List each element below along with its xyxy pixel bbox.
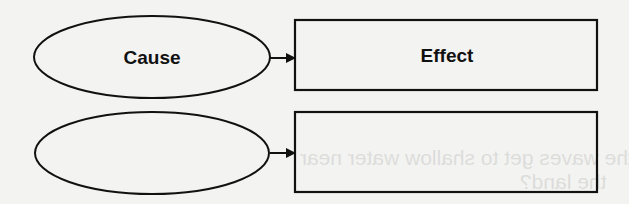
cause-ellipse-2 bbox=[35, 112, 269, 194]
row-1: Cause Effect bbox=[34, 16, 597, 98]
effect-label-1: Effect bbox=[421, 45, 474, 66]
row-2 bbox=[35, 112, 597, 194]
effect-box-2 bbox=[295, 112, 597, 192]
cause-label-1: Cause bbox=[123, 47, 180, 68]
cause-effect-diagram: Cause Effect bbox=[0, 0, 629, 204]
